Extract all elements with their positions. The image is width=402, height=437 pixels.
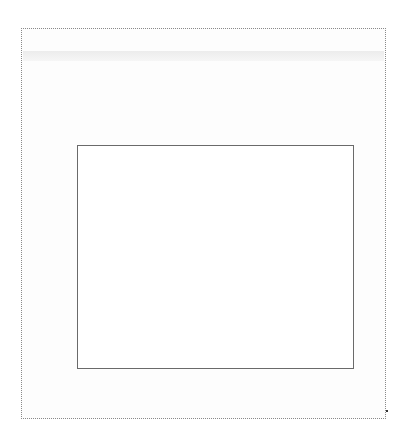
- plot-area: [77, 145, 354, 369]
- decorative-dot: [386, 410, 388, 412]
- bar-series: [78, 146, 353, 368]
- header-band: [23, 51, 384, 61]
